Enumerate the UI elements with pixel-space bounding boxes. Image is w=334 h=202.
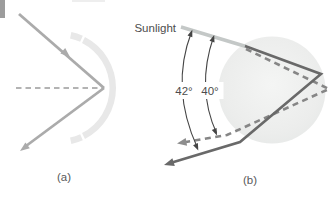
angle-42-label: 42° (175, 85, 192, 97)
droplet-arc-top-dash (71, 35, 82, 39)
incident-ray (19, 14, 104, 88)
raindrop-circle (219, 37, 326, 144)
angle-40-bottom-arrowhead-icon (212, 128, 217, 135)
returning-ray-line (26, 88, 104, 146)
angle-40-label: 40° (201, 85, 218, 97)
returning-ray (20, 88, 104, 151)
panel-b: Sunlight 42° 40° (b) (134, 22, 329, 186)
solid-ray-arrowhead-icon (164, 158, 175, 166)
cropped-top-remnant (72, 0, 105, 2)
dashed-ray-arrowhead-icon (177, 138, 187, 146)
panel-b-caption: (b) (243, 174, 257, 186)
rainbow-raindrop-figure: (a) (0, 0, 334, 202)
droplet-arc-bottom-dash (71, 137, 82, 141)
sunlight-label: Sunlight (134, 22, 176, 34)
incident-ray-line (19, 14, 104, 88)
panel-a-caption: (a) (57, 171, 71, 183)
panel-a: (a) (0, 0, 113, 183)
cropped-corner-bar (0, 0, 5, 18)
figure-svg: (a) (0, 0, 334, 202)
angle-42-bottom-arrowhead-icon (193, 143, 198, 150)
